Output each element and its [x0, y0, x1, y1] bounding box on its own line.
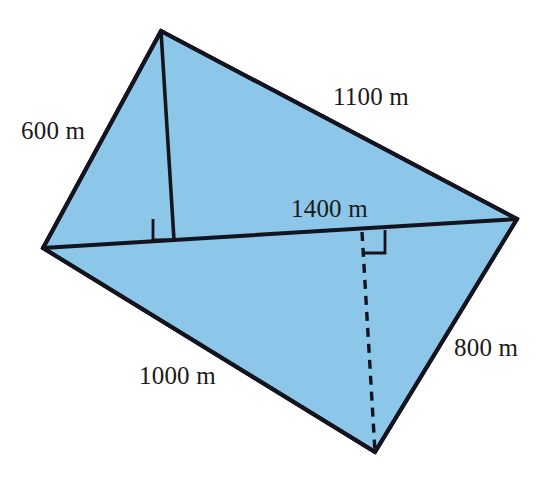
label-side-1000: 1000 m	[139, 363, 216, 388]
quadrilateral-diagram	[0, 0, 550, 480]
label-side-800: 800 m	[454, 335, 518, 360]
label-side-600: 600 m	[21, 118, 85, 143]
figure-root: 600 m 1100 m 1400 m 1000 m 800 m	[0, 0, 550, 480]
label-diagonal-1400: 1400 m	[291, 196, 368, 221]
label-side-1100: 1100 m	[333, 84, 409, 109]
